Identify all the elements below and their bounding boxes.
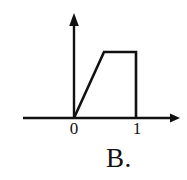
x-axis-arrow-icon	[170, 114, 180, 123]
option-label: B.	[106, 144, 162, 173]
x-tick-label-0: 0	[64, 120, 84, 137]
y-axis-arrow-icon	[69, 13, 79, 26]
figure-container: 0 1 B.	[0, 0, 187, 180]
x-tick-label-1: 1	[127, 120, 147, 137]
data-curve	[74, 52, 136, 118]
